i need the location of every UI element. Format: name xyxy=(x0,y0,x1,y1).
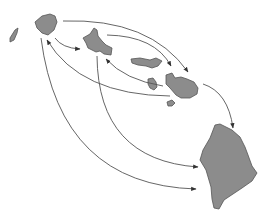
island-hawaii xyxy=(200,124,257,209)
arrow-kauai-to-oahu xyxy=(55,38,80,49)
arrow-kauai-to-maui xyxy=(63,21,188,72)
arrow-kauai-to-hawaii xyxy=(41,38,196,189)
island-maui xyxy=(166,73,198,98)
island-molokai xyxy=(131,58,162,68)
island-kauai xyxy=(35,14,57,35)
arrow-maui-to-hawaii xyxy=(203,84,233,128)
diagram-canvas xyxy=(0,0,273,223)
island-kahoolawe xyxy=(167,100,175,106)
island-niihau xyxy=(10,28,18,42)
arrow-oahu-to-hawaii xyxy=(97,56,198,167)
island-dispersal-diagram xyxy=(0,0,273,223)
island-oahu xyxy=(83,28,112,55)
